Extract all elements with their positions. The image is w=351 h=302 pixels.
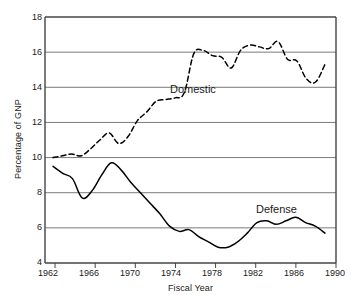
axis-ticks [55,263,336,268]
plot-frame [45,17,336,263]
data-series-layer [53,41,325,248]
gridlines [45,52,336,228]
series-line-domestic [53,41,325,157]
series-label-defense: Defense [256,204,297,215]
series-label-domestic: Domestic [170,84,216,95]
plot-area [0,0,351,302]
chart-figure: Percentage of GNP 18 16 14 12 10 8 6 4 1… [0,0,351,302]
